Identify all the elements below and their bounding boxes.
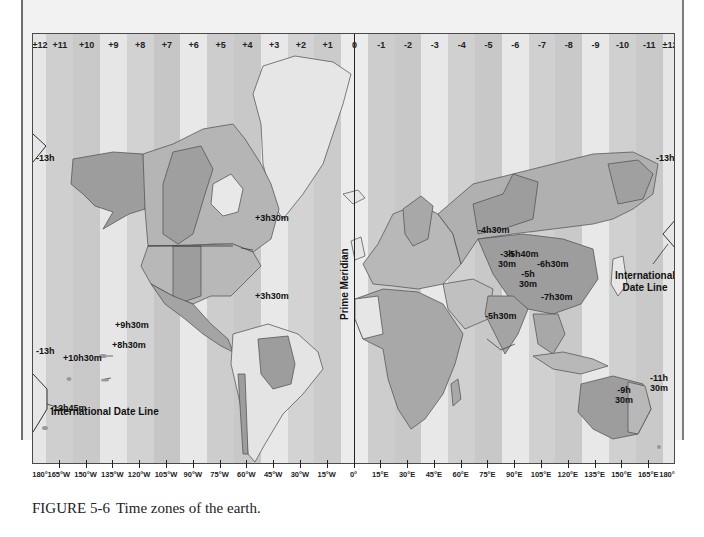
figure-caption: FIGURE 5-6Time zones of the earth.: [32, 500, 261, 517]
time-zone-label: +3: [269, 40, 279, 50]
time-zone-label: -8: [565, 40, 573, 50]
longitude-label: 75°E: [479, 470, 495, 479]
zone-offset-minus13h-east: -13h: [656, 153, 675, 163]
time-zone-label: -7: [538, 40, 546, 50]
longitude-label: 60°E: [452, 470, 468, 479]
zone-offset-minus9h30m: -9h 30m: [615, 385, 633, 405]
alaska: [71, 152, 148, 229]
idl-line-west-lower: [33, 374, 47, 432]
time-zone-label: 0: [352, 40, 357, 50]
time-zone-label: +10: [79, 40, 94, 50]
longitude-label: 135°W: [101, 470, 124, 479]
longitude-label: 165°W: [47, 470, 70, 479]
figure-number: FIGURE 5-6: [32, 500, 110, 516]
idl-line-east: [663, 219, 675, 249]
time-zone-label: -1: [377, 40, 385, 50]
usa-central: [173, 246, 201, 302]
prime-meridian-line: [354, 34, 355, 463]
longitude-label: 180°: [32, 470, 48, 479]
longitude-axis: 180°165°W150°W135°W120°W105°W90°W75°W60°…: [32, 464, 675, 484]
zone-offset-minus11h30m: -11h 30m: [650, 373, 668, 393]
longitude-label: 0°: [350, 470, 357, 479]
indonesia: [533, 352, 608, 374]
time-zone-label: +6: [189, 40, 199, 50]
time-zone-label: -2: [404, 40, 412, 50]
longitude-label: 45°E: [426, 470, 442, 479]
zone-offset-plus3h30m-guiana: +3h30m: [255, 291, 289, 301]
time-zone-label: +1: [323, 40, 333, 50]
zone-offset-minus7h30m: -7h30m: [541, 292, 573, 302]
longitude-label: 60°W: [237, 470, 255, 479]
se-asia: [533, 314, 565, 354]
west-africa: [355, 296, 383, 339]
longitude-label: 30°W: [291, 470, 309, 479]
zone-offset-plus10h30m: +10h30m: [63, 353, 102, 363]
prime-meridian-label: Prime Meridian: [339, 248, 350, 320]
time-zone-label: +4: [242, 40, 252, 50]
longitude-label: 150°W: [74, 470, 97, 479]
zone-offset-minus5h30m-srilanka: -5h30m: [485, 311, 517, 321]
longitude-label: 180°: [659, 470, 675, 479]
time-zone-label: -6: [511, 40, 519, 50]
zone-offset-minus13h-alaska: -13h: [36, 153, 55, 163]
idl-east-line1: International: [615, 270, 675, 282]
time-zone-label: ±12: [33, 40, 48, 50]
longitude-label: 165°E: [638, 470, 659, 479]
india: [485, 296, 528, 354]
time-zone-label: +9: [108, 40, 118, 50]
time-zone-label: +7: [162, 40, 172, 50]
figure-caption-text: Time zones of the earth.: [116, 500, 261, 516]
longitude-label: 75°W: [210, 470, 228, 479]
zone-offset-minus4h30m: -4h30m: [478, 225, 510, 235]
zone-offset-minus13h-west-pacific: -13h: [36, 346, 55, 356]
longitude-label: 15°W: [317, 470, 335, 479]
zone-offset-minus5h40m: -5h40m: [507, 249, 539, 259]
zone-offset-minus6h30m: -6h30m: [537, 259, 569, 269]
idl-east-line2: Date Line: [615, 282, 675, 294]
time-zone-label: -11: [643, 40, 656, 50]
international-date-line-label-east: International Date Line: [615, 270, 675, 294]
longitude-label: 45°W: [264, 470, 282, 479]
longitude-label: 90°E: [506, 470, 522, 479]
time-zone-label: -10: [616, 40, 629, 50]
zone-offset-minus12h45m: -12h45m: [50, 403, 87, 413]
longitude-label: 15°E: [372, 470, 388, 479]
time-zone-label: +5: [215, 40, 225, 50]
longitude-label: 105°E: [531, 470, 552, 479]
time-zone-label: -5: [484, 40, 492, 50]
time-zone-label: -4: [458, 40, 466, 50]
time-zone-label: +11: [52, 40, 67, 50]
time-zone-label: -3: [431, 40, 439, 50]
time-zone-label: +2: [296, 40, 306, 50]
longitude-label: 90°W: [184, 470, 202, 479]
time-zone-label: +8: [135, 40, 145, 50]
longitude-label: 120°E: [558, 470, 579, 479]
zone-offset-plus8h30m: +8h30m: [112, 340, 146, 350]
zone-offset-plus3h30m-newfoundland: +3h30m: [255, 213, 289, 223]
idl-pointer-east: [653, 244, 668, 264]
time-zone-label: -9: [592, 40, 600, 50]
longitude-label: 105°W: [155, 470, 178, 479]
longitude-label: 135°E: [584, 470, 605, 479]
time-zone-label: ±12: [663, 40, 675, 50]
longitude-label: 30°E: [399, 470, 415, 479]
longitude-label: 120°W: [128, 470, 151, 479]
longitude-label: 150°E: [611, 470, 632, 479]
zone-offset-minus5h30m-india: -5h 30m: [519, 269, 537, 289]
zone-offset-plus9h30m: +9h30m: [115, 320, 149, 330]
time-zone-map: ±12+11+10+9+8+7+6+5+4+3+2+10-1-2-3-4-5-6…: [32, 33, 675, 464]
madagascar: [451, 379, 461, 406]
